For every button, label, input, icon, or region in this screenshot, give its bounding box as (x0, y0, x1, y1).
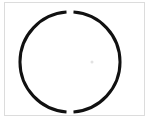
center-speck-icon (91, 61, 94, 64)
circle-diagram-svg (0, 0, 149, 123)
circle-arc-primary (20, 12, 67, 112)
figure-canvas (0, 0, 149, 123)
circle-arc-secondary (73, 12, 120, 112)
screenshot-root: Circle outline with gaps (0, 0, 149, 123)
